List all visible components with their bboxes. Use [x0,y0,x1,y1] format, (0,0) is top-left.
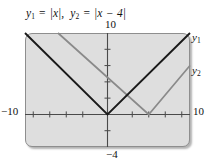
plot-canvas [25,33,190,147]
graph-figure: y1 = |x|,y2 = |x − 4| [0,0,214,168]
y1-expression: |x|, [50,7,65,19]
y2-expression-close: 4| [117,7,126,19]
curve-y2 [58,33,190,114]
y-axis-max-label: 10 [105,18,116,30]
y2-expression-open: |x [94,7,102,19]
x-axis-max-label: 10 [193,105,204,117]
x-axis-min-label: −10 [1,105,18,117]
y1-equals-sign: = [38,7,47,19]
curve-label-y1-sub: 1 [197,36,201,45]
curve-label-y2: y2 [192,64,201,78]
curve-label-y1: y1 [192,31,201,45]
y2-equals-sign: = [82,7,91,19]
y1-subscript: 1 [31,12,35,21]
y-axis-min-label: −4 [106,148,118,160]
curve-label-y2-sub: 2 [197,69,201,78]
y2-subscript: 2 [76,12,80,21]
axes-group [25,33,190,147]
